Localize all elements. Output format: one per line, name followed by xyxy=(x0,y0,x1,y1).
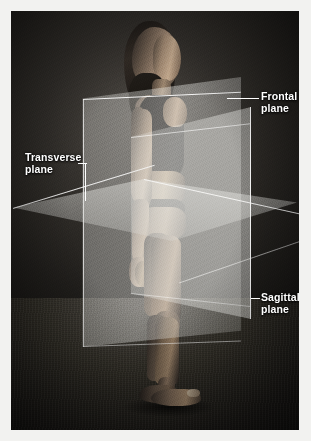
transverse-plane-label: Transverse plane xyxy=(25,152,81,175)
frontal-plane-leader-line xyxy=(227,98,259,99)
photograph: Frontal plane Transverse plane Sagittal … xyxy=(11,11,299,430)
sagittal-plane-label: Sagittal plane xyxy=(261,292,299,315)
sagittal-plane-label-line1: Sagittal xyxy=(261,292,299,304)
frontal-plane-label-line2: plane xyxy=(261,103,297,115)
frontal-plane-label: Frontal plane xyxy=(261,91,297,114)
sagittal-plane-surface xyxy=(131,107,251,319)
frontal-plane-label-line1: Frontal xyxy=(261,91,297,103)
sagittal-plane-label-line2: plane xyxy=(261,304,299,316)
sagittal-plane-leader-line xyxy=(251,298,260,299)
figure-toe-highlight xyxy=(187,389,200,397)
anatomical-planes-figure: Frontal plane Transverse plane Sagittal … xyxy=(0,0,311,441)
transverse-plane-leader-line-vertical xyxy=(85,163,86,201)
sagittal-plane-right-edge xyxy=(250,107,251,319)
transverse-plane-label-line2: plane xyxy=(25,164,81,176)
sagittal-plane[interactable] xyxy=(131,107,251,319)
transverse-plane-label-line1: Transverse xyxy=(25,152,81,164)
